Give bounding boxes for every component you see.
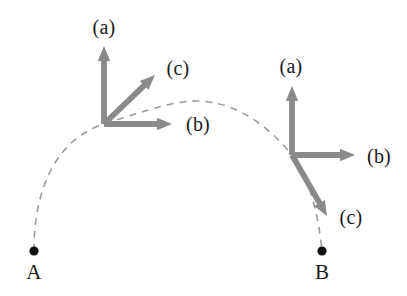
diagram-vector-layer [0,0,407,296]
frame-B-vector-b [292,149,355,161]
frame-A-label-c: (c) [167,57,190,80]
frame-A-label-b: (b) [186,113,210,136]
frame-B-label-a: (a) [280,55,303,78]
frames-group [98,46,355,216]
frame-B-vector-a [286,86,298,155]
frame-A-label-a: (a) [93,16,116,39]
trajectory-group [34,101,322,251]
frame-A-vector-b [104,118,172,130]
frame-A [98,46,172,130]
frame-A-vector-c [104,75,155,124]
frame-B-vector-a-head [286,86,298,101]
dashed-arc-path [34,101,322,251]
point-A-dot [29,246,38,255]
frame-B-vector-c-shaft [292,155,321,206]
point-A-label: A [26,260,41,285]
frame-B-vector-c [292,155,327,216]
frame-B [286,86,355,216]
diagram-canvas: (a)(b)(c)(a)(b)(c)AB [0,0,407,296]
frame-A-vector-c-shaft [104,83,146,124]
frame-A-vector-a [98,46,110,124]
point-B-label: B [315,260,329,285]
frame-B-vector-b-head [340,149,355,161]
point-B-dot [317,246,326,255]
frame-B-label-c: (c) [340,206,363,229]
frame-A-vector-a-head [98,46,110,61]
frame-A-vector-b-head [157,118,172,130]
endpoints-group [29,246,326,255]
frame-B-label-b: (b) [367,145,391,168]
